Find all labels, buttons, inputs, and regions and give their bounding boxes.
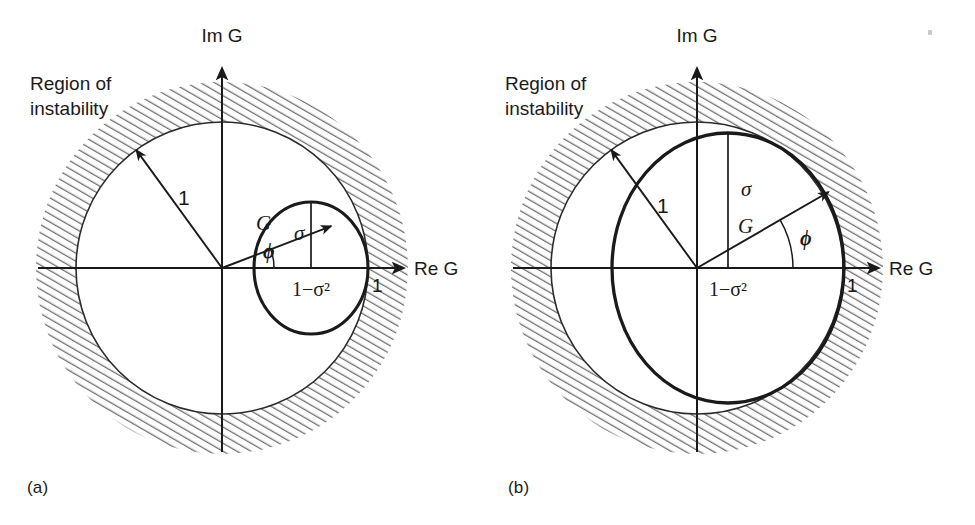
center-label-b: 1−σ² bbox=[709, 278, 747, 300]
real-intercept-label-b: 1 bbox=[847, 275, 858, 296]
unit-radius-label-b: 1 bbox=[657, 194, 669, 217]
axis-label-real-b: Re G bbox=[889, 258, 933, 279]
instability-hatch-region-b bbox=[0, 0, 975, 525]
phi-label-b: ϕ bbox=[800, 227, 812, 250]
panel-caption-a: (a) bbox=[27, 478, 48, 498]
panel-caption-b: (b) bbox=[508, 478, 529, 498]
sigma-label-b: σ bbox=[741, 177, 753, 201]
g-vector-label-b: G bbox=[738, 214, 753, 238]
figure-canvas: Im G Re G Region of instability 1 1 G ϕ … bbox=[0, 0, 975, 525]
scan-speck bbox=[928, 30, 932, 35]
region-label-line1-b: Region of bbox=[505, 73, 587, 94]
stability-diagram-figure: Im G Re G Region of instability 1 1 G ϕ … bbox=[0, 0, 975, 525]
region-label-line2-b: instability bbox=[505, 98, 584, 119]
axis-label-imag-b: Im G bbox=[676, 25, 717, 46]
panel-b: Im G Re G Region of instability 1 1 G ϕ … bbox=[0, 0, 975, 525]
